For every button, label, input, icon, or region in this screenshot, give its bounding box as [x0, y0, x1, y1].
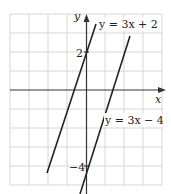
- graph: y x 2 −4 y = 3x + 2 y = 3x − 4: [0, 0, 171, 194]
- y-axis-label: y: [73, 10, 81, 23]
- tick-label-neg4: −4: [69, 161, 85, 174]
- line-y-3x-plus-2: [47, 24, 96, 173]
- x-axis-label: x: [155, 93, 162, 106]
- line2-label: y = 3x − 4: [104, 114, 164, 127]
- tick-label-2: 2: [76, 47, 83, 60]
- line1-label: y = 3x + 2: [98, 18, 158, 31]
- y-axis-arrow-icon: [84, 14, 90, 22]
